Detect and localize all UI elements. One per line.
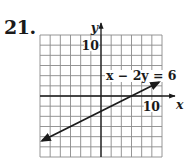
x-tick-label-10: 10 xyxy=(143,99,161,114)
x-axis-label: x xyxy=(175,97,184,112)
equation-label: x − 2y = 6 xyxy=(106,68,177,83)
y-axis-label: y xyxy=(90,20,99,35)
coordinate-graph: 10 10 x y x − 2y = 6 xyxy=(0,0,190,164)
y-tick-label-10: 10 xyxy=(82,38,100,53)
